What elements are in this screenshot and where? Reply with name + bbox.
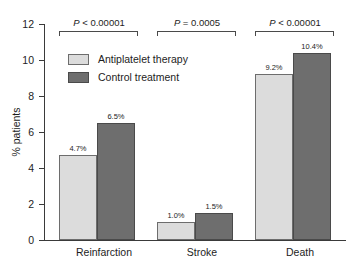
pvalue-rest-stroke: = 0.0005 — [180, 17, 220, 28]
bar-reinfarction-antiplatelet — [59, 155, 97, 240]
legend-item-antiplatelet: Antiplatelet therapy — [68, 52, 188, 67]
bar-label-reinfarction-control: 6.5% — [97, 113, 135, 121]
legend: Antiplatelet therapy Control treatment — [68, 52, 188, 88]
legend-label-antiplatelet: Antiplatelet therapy — [98, 54, 188, 65]
y-tick-label-12: 12 — [0, 19, 34, 29]
bar-label-stroke-control: 1.5% — [195, 203, 233, 211]
pvalue-label-death: P < 0.00001 — [248, 17, 342, 28]
bar-label-death-antiplatelet: 9.2% — [255, 64, 293, 72]
y-tick-label-0: 0 — [0, 235, 34, 245]
bar-label-stroke-antiplatelet: 1.0% — [157, 212, 195, 220]
bar-chart: 12 10 8 6 4 2 0 % patients 4.7% 6.5% 1.0… — [0, 0, 354, 276]
legend-swatch-antiplatelet-icon — [68, 54, 89, 65]
pvalue-rest-reinfarction: < 0.00001 — [80, 17, 125, 28]
y-tick-label-8: 8 — [0, 91, 34, 101]
y-tick-label-2: 2 — [0, 199, 34, 209]
x-axis-line — [44, 240, 346, 241]
pvalue-rest-death: < 0.00001 — [276, 17, 321, 28]
legend-item-control: Control treatment — [68, 70, 188, 85]
pvalue-bracket-reinfarction — [59, 31, 138, 36]
y-tick-0 — [39, 240, 45, 241]
pvalue-label-stroke: P = 0.0005 — [150, 17, 244, 28]
pvalue-bracket-death — [255, 31, 334, 36]
category-label-death: Death — [255, 246, 345, 258]
bar-stroke-antiplatelet — [157, 222, 195, 240]
bar-death-control — [293, 53, 331, 240]
bar-stroke-control — [195, 213, 233, 240]
bar-death-antiplatelet — [255, 74, 293, 240]
pvalue-label-reinfarction: P < 0.00001 — [52, 17, 146, 28]
category-label-stroke: Stroke — [157, 246, 247, 258]
bar-label-reinfarction-antiplatelet: 4.7% — [59, 145, 97, 153]
y-tick-label-10: 10 — [0, 55, 34, 65]
category-label-reinfarction: Reinfarction — [59, 246, 149, 258]
y-tick-label-4: 4 — [0, 163, 34, 173]
bar-label-death-control: 10.4% — [293, 43, 331, 51]
y-axis-title: % patients — [10, 107, 22, 156]
legend-swatch-control-icon — [68, 72, 89, 83]
pvalue-bracket-stroke — [157, 31, 236, 36]
bar-reinfarction-control — [97, 123, 135, 240]
legend-label-control: Control treatment — [98, 72, 179, 83]
